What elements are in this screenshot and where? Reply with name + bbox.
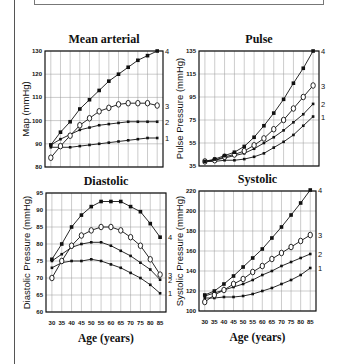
dot-marker: [292, 121, 295, 124]
dot-marker: [302, 124, 305, 127]
systolic-x-axis-label: Age (years): [230, 331, 286, 344]
dot-marker: [98, 124, 101, 127]
dot-marker: [70, 260, 73, 263]
dot-marker: [100, 260, 103, 263]
plot-frame: [199, 51, 319, 166]
y-tick-labels: 6065707580859095: [36, 190, 43, 315]
series-label-4: 4: [321, 47, 325, 56]
open-circle-marker: [252, 143, 256, 149]
series-4: 4: [49, 47, 169, 147]
dot-marker: [149, 268, 152, 271]
square-marker: [241, 265, 245, 269]
svg-text:120: 120: [186, 288, 197, 294]
square-marker: [222, 282, 226, 286]
dot-marker: [272, 136, 275, 139]
series-label-3: 3: [318, 231, 322, 240]
dot-marker: [290, 261, 293, 264]
square-marker: [203, 293, 207, 297]
series-label-2: 2: [318, 250, 322, 259]
svg-text:55: 55: [98, 320, 105, 326]
systolic-title: Systolic: [238, 172, 278, 186]
square-marker: [262, 124, 266, 128]
dot-marker: [137, 120, 140, 123]
svg-text:80: 80: [36, 241, 43, 247]
svg-text:75: 75: [36, 258, 43, 264]
dot-marker: [137, 138, 140, 141]
systolic-chart: Systolic100120140160180200220Systolic Pr…: [174, 172, 322, 344]
square-marker: [148, 222, 152, 226]
dot-marker: [127, 139, 130, 142]
mean-arterial-title: Mean arterial: [69, 32, 141, 46]
open-circle-marker: [116, 102, 120, 108]
dot-marker: [108, 141, 111, 144]
dot-marker: [117, 122, 120, 125]
dot-marker: [223, 296, 226, 299]
dot-marker: [232, 296, 235, 299]
dot-marker: [290, 279, 293, 282]
dot-marker: [59, 138, 62, 141]
y-tick-labels: 100120140160180200220: [186, 188, 197, 314]
dot-marker: [100, 241, 103, 244]
dot-marker: [282, 129, 285, 132]
series-1: 1: [203, 264, 322, 299]
square-marker: [233, 150, 237, 154]
square-marker: [232, 274, 236, 278]
dot-marker: [139, 261, 142, 264]
dot-marker: [280, 265, 283, 268]
square-marker: [139, 210, 143, 214]
square-marker: [129, 205, 133, 209]
square-marker: [59, 130, 63, 134]
open-circle-marker: [262, 136, 266, 142]
square-marker: [292, 81, 296, 85]
y-tick-labels: 8090100110120130: [32, 48, 43, 170]
svg-text:140: 140: [186, 268, 197, 274]
open-circle-marker: [89, 228, 93, 234]
open-circle-marker: [308, 232, 312, 238]
svg-text:80: 80: [35, 164, 42, 170]
dot-marker: [127, 120, 130, 123]
svg-text:95: 95: [189, 94, 196, 100]
svg-text:75: 75: [137, 320, 144, 326]
dot-marker: [98, 143, 101, 146]
open-circle-marker: [251, 269, 255, 275]
square-marker: [109, 200, 113, 204]
dot-marker: [243, 158, 246, 161]
dot-marker: [110, 244, 113, 247]
dot-marker: [117, 140, 120, 143]
open-circle-marker: [242, 148, 246, 154]
svg-text:30: 30: [49, 320, 56, 326]
open-circle-marker: [60, 258, 64, 264]
svg-text:115: 115: [186, 71, 196, 77]
dot-marker: [263, 152, 266, 155]
dot-marker: [251, 293, 254, 296]
dot-marker: [51, 267, 54, 270]
pulse-y-axis-label: Pulse Pressure (mmHg): [174, 58, 185, 159]
mean-arterial-chart: Mean arterial8090100110120130Map (mmHg)1…: [20, 32, 169, 170]
svg-text:65: 65: [36, 292, 43, 298]
square-marker: [282, 98, 286, 102]
square-marker: [242, 145, 246, 149]
dot-marker: [309, 253, 312, 256]
dot-marker: [69, 146, 72, 149]
square-marker: [107, 79, 111, 83]
open-circle-marker: [203, 299, 207, 305]
series-label-1: 1: [318, 264, 322, 273]
svg-text:85: 85: [307, 319, 314, 325]
svg-text:160: 160: [186, 248, 197, 254]
open-circle-marker: [281, 117, 285, 123]
plot-frame: [45, 51, 163, 167]
open-circle-marker: [155, 103, 159, 109]
open-circle-marker: [279, 250, 283, 256]
square-marker: [49, 143, 53, 147]
series-label-3: 3: [168, 271, 172, 280]
svg-text:180: 180: [186, 228, 197, 234]
svg-text:90: 90: [35, 141, 42, 147]
square-marker: [97, 89, 101, 93]
dot-marker: [271, 270, 274, 273]
svg-text:85: 85: [36, 224, 43, 230]
open-circle-marker: [231, 281, 235, 287]
dot-marker: [88, 126, 91, 129]
open-circle-marker: [78, 122, 82, 128]
series-label-3: 3: [321, 82, 325, 91]
square-marker: [308, 188, 312, 192]
